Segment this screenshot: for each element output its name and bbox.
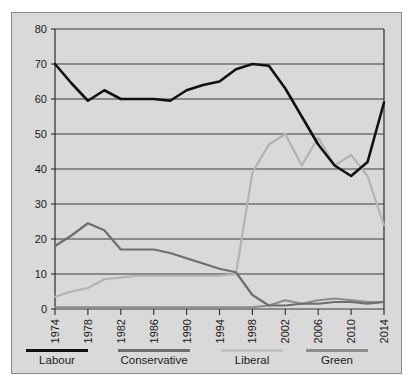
x-axis-tick-label: 2006 [312,319,324,343]
x-axis-tick-label: 2014 [378,319,390,343]
legend-label-liberal: Liberal [217,354,287,367]
x-axis-tick-label: 1994 [214,319,226,343]
legend-item-conservative: Conservative [114,349,194,367]
series-line-labour [55,64,384,176]
y-axis-tick-label: 40 [35,163,47,175]
line-chart-svg: 0102030405060708019741978198219861990199… [12,13,403,375]
series-line-conservative [55,223,384,305]
x-axis-tick-label: 2002 [279,319,291,343]
legend-swatch-liberal [221,349,283,352]
chart-legend: LabourConservativeLiberalGreen [12,349,403,375]
legend-item-liberal: Liberal [217,349,287,367]
chart-figure: 0102030405060708019741978198219861990199… [0,0,413,387]
legend-label-labour: Labour [22,354,92,367]
y-axis-tick-label: 20 [35,233,47,245]
x-axis-tick-label: 1974 [49,319,61,343]
legend-label-conservative: Conservative [114,354,194,367]
chart-panel: 0102030405060708019741978198219861990199… [11,12,402,374]
y-axis-tick-label: 10 [35,268,47,280]
x-axis-tick-label: 2010 [345,319,357,343]
legend-swatch-labour [26,349,88,352]
legend-item-labour: Labour [22,349,92,367]
y-axis-tick-label: 30 [35,198,47,210]
cropped-caption-strip [0,0,413,12]
y-axis-tick-label: 80 [35,23,47,35]
legend-swatch-conservative [118,349,190,352]
x-axis-tick-label: 1998 [246,319,258,343]
plot-area: 0102030405060708019741978198219861990199… [12,13,403,375]
legend-item-green: Green [302,349,372,367]
y-axis-tick-label: 60 [35,93,47,105]
y-axis-tick-label: 50 [35,128,47,140]
x-axis-tick-label: 1978 [82,319,94,343]
x-axis-tick-label: 1986 [148,319,160,343]
y-axis-tick-label: 0 [41,303,47,315]
legend-label-green: Green [302,354,372,367]
x-axis-tick-label: 1990 [181,319,193,343]
legend-swatch-green [306,349,368,352]
y-axis-tick-label: 70 [35,58,47,70]
series-line-liberal [55,134,384,297]
x-axis-tick-label: 1982 [115,319,127,343]
